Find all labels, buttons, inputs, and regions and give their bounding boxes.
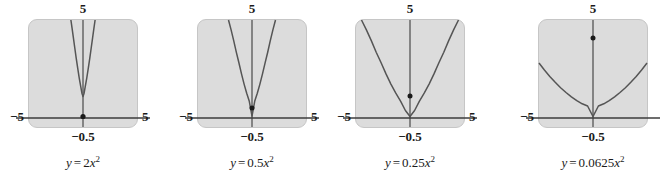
caption-equals-2: = — [236, 155, 247, 170]
caption-exponent-1: 2 — [95, 154, 100, 164]
caption-exponent-2: 2 — [269, 154, 274, 164]
caption-lhs-2: y — [230, 155, 236, 170]
vertex-point-4 — [591, 36, 596, 41]
axis-label-left-1: −5 — [10, 110, 24, 123]
axis-label-left-2: −5 — [179, 110, 193, 123]
caption-equals-1: = — [72, 155, 83, 170]
axis-label-bottom-1: −0.5 — [71, 130, 95, 143]
caption-lhs-3: y — [385, 155, 391, 170]
vertex-point-3 — [408, 94, 413, 99]
axis-label-left-3: −5 — [337, 110, 351, 123]
axis-label-left-4: −5 — [520, 110, 534, 123]
axis-label-right-3: 5 — [469, 110, 476, 123]
axis-label-top-3: 5 — [407, 2, 414, 15]
caption-equals-3: = — [391, 155, 402, 170]
panel-caption-1: y=2x2 — [66, 156, 100, 169]
axis-label-top-1: 5 — [80, 2, 87, 15]
axis-label-right-1: 5 — [142, 110, 149, 123]
caption-exponent-4: 2 — [620, 154, 625, 164]
axis-label-bottom-2: −0.5 — [240, 130, 264, 143]
caption-lhs-4: y — [561, 155, 567, 170]
vertex-point-1 — [80, 114, 85, 119]
axis-label-bottom-3: −0.5 — [398, 130, 422, 143]
caption-lhs-1: y — [66, 155, 72, 170]
caption-equals-4: = — [567, 155, 578, 170]
caption-coefficient-4: 0.0625 — [579, 155, 615, 170]
panel-caption-3: y=0.25x2 — [385, 156, 435, 169]
caption-exponent-3: 2 — [431, 154, 436, 164]
caption-coefficient-3: 0.25 — [402, 155, 425, 170]
axis-label-bottom-4: −0.5 — [581, 130, 605, 143]
axis-label-right-2: 5 — [311, 110, 318, 123]
vertex-point-2 — [250, 106, 255, 111]
caption-coefficient-2: 0.5 — [247, 155, 263, 170]
axis-label-top-4: 5 — [590, 2, 597, 15]
axis-label-top-2: 5 — [249, 2, 256, 15]
panel-caption-2: y=0.5x2 — [230, 156, 274, 169]
panel-caption-4: y=0.0625x2 — [561, 156, 624, 169]
